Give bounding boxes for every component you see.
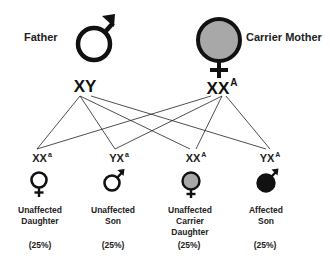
line-father-to-child-1 — [37, 96, 80, 149]
child-4-label: Affected Son — [231, 205, 301, 227]
child-3-label-line2: Carrier — [155, 216, 225, 227]
mother-genotype-allele: A — [230, 77, 237, 88]
mother-female-symbol-icon — [198, 19, 240, 78]
father-lines — [37, 96, 266, 149]
child-3-label: Unaffected Carrier Daughter — [155, 205, 225, 238]
line-mother-to-child-4 — [226, 96, 270, 149]
child-4-label-line2: Son — [231, 216, 301, 227]
child-2-genotype-allele: a — [125, 151, 129, 158]
line-father-to-child-2 — [80, 96, 115, 149]
child-3-genotype-allele: A — [201, 151, 206, 158]
child-1-label: Unaffected Daughter — [5, 205, 75, 227]
child-3-percent: (25%) — [178, 240, 201, 250]
father-label: Father — [24, 31, 58, 43]
child-2-label-line2: Son — [78, 216, 148, 227]
mother-lines — [37, 96, 270, 149]
mother-label: Carrier Mother — [246, 31, 322, 43]
child-3-female-symbol-icon — [183, 173, 200, 199]
mother-genotype-base: XX — [207, 79, 230, 98]
line-father-to-child-3 — [80, 96, 190, 149]
child-2-percent: (25%) — [102, 240, 125, 250]
child-1-genotype-base: XX — [32, 152, 47, 164]
child-4-genotype-allele: A — [275, 151, 280, 158]
child-4-male-symbol-icon — [258, 169, 279, 192]
child-2-label-line1: Unaffected — [78, 205, 148, 216]
child-1-female-symbol-icon — [32, 173, 47, 198]
child-1-percent: (25%) — [29, 240, 52, 250]
child-3-label-line3: Daughter — [155, 227, 225, 238]
child-2-genotype: YXa — [109, 151, 129, 164]
father-genotype: XY — [74, 77, 97, 97]
line-mother-to-child-3 — [196, 96, 222, 149]
child-2-genotype-base: YX — [109, 152, 124, 164]
child-2-label: Unaffected Son — [78, 205, 148, 227]
child-3-genotype: XXA — [186, 151, 207, 164]
father-male-symbol-icon — [78, 14, 115, 60]
child-1-label-line1: Unaffected — [5, 205, 75, 216]
child-1-genotype: XXa — [32, 151, 52, 164]
child-4-genotype: YXA — [260, 151, 281, 164]
mother-genotype: XXA — [207, 77, 238, 99]
line-mother-to-child-2 — [115, 96, 222, 149]
child-4-label-line1: Affected — [231, 205, 301, 216]
child-3-genotype-base: XX — [186, 152, 201, 164]
line-mother-to-child-1 — [37, 96, 211, 149]
child-1-genotype-allele: a — [48, 151, 52, 158]
child-1-label-line2: Daughter — [5, 216, 75, 227]
child-2-male-symbol-icon — [105, 169, 125, 191]
child-3-label-line1: Unaffected — [155, 205, 225, 216]
line-father-to-child-4 — [91, 96, 266, 149]
child-4-percent: (25%) — [254, 240, 277, 250]
child-4-genotype-base: YX — [260, 152, 275, 164]
